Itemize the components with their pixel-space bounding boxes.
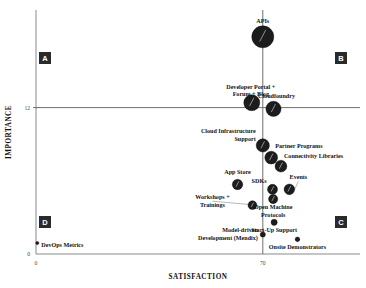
bubble-marker[interactable] [295,237,300,242]
data-point[interactable] [275,160,287,172]
point-label-line: Partner Programs [275,143,323,149]
point-label: Open MachineProtocols [254,204,293,218]
data-point[interactable] [295,237,300,242]
x-axis-title: SATISFACTION [169,273,228,281]
data-point[interactable] [269,195,278,204]
point-label-line: Connectivity Libraries [284,153,344,159]
data-point[interactable] [252,26,274,48]
point-label-line: Model-driven [222,227,258,233]
plot-canvas: APIsDeveloper Portal +Forum + BlogCloudf… [0,0,366,288]
axis-titles: IMPORTANCESATISFACTION [5,105,228,281]
point-label-line: Support [234,136,255,142]
quadrant-marker-d: D [39,216,51,228]
point-label: Cloud InfrastructureSupport [201,128,256,142]
point-label: Start-Up Support [251,227,297,233]
point-label: Workshops +Trainings [195,194,230,208]
point-label: Onsite Demonstrators [269,244,327,250]
point-label-line: SDKs [252,178,268,184]
point-label-line: APIs [256,18,269,24]
point-label: Partner Programs [275,143,323,149]
y-tick-label-12: 12 [24,105,30,111]
data-point[interactable] [36,241,39,244]
quadrant-marker-c: C [335,216,347,228]
data-point[interactable] [284,184,295,195]
point-label-line: App Store [224,169,251,175]
quadrant-letter: A [42,54,48,63]
point-label-line: Development (Mendix) [198,235,258,242]
scatter-chart: APIsDeveloper Portal +Forum + BlogCloudf… [0,0,366,288]
point-label: Model-drivenDevelopment (Mendix) [198,227,258,242]
point-label: App Store [224,169,251,175]
point-label-line: Onsite Demonstrators [269,244,327,250]
data-point[interactable] [271,219,277,225]
y-tick-label-0: 0 [27,251,30,257]
threshold-lines [36,10,360,254]
point-label: Events [290,174,308,180]
point-label: DevOps Metrics [41,242,84,248]
quadrant-letter: D [42,218,48,227]
point-label-line: Trainings [200,202,226,208]
quadrant-letter: C [338,218,344,227]
bubble-marker[interactable] [252,26,274,48]
axes-layer [36,10,360,254]
point-label-line: Cloud Infrastructure [201,128,256,134]
point-label-line: Open Machine [254,204,293,210]
point-label-line: Events [290,174,308,180]
quadrant-letter: B [338,54,344,63]
point-label-line: DevOps Metrics [41,242,84,248]
bubble-marker[interactable] [36,241,39,244]
leader-line [295,181,299,189]
x-tick-label-0: 0 [35,260,38,266]
data-point[interactable] [268,184,278,194]
point-label-line: Protocols [261,212,286,218]
point-label: APIs [256,18,269,24]
data-point[interactable] [256,139,269,152]
bubble-marker[interactable] [271,219,277,225]
point-labels: APIsDeveloper Portal +Forum + BlogCloudf… [41,18,343,251]
point-label: Connectivity Libraries [284,153,344,159]
data-point[interactable] [232,179,242,189]
quadrant-markers: ABCD [39,52,347,228]
y-axis-title: IMPORTANCE [5,105,13,159]
quadrant-marker-b: B [335,52,347,64]
point-label: SDKs [252,178,268,184]
point-label-line: Developer Portal + [226,84,276,90]
point-label-line: Cloudfoundry [258,93,295,99]
x-tick-label-70: 70 [260,260,266,266]
quadrant-marker-a: A [39,52,51,64]
point-label: Cloudfoundry [258,93,295,99]
data-point[interactable] [266,101,281,116]
point-label-line: Start-Up Support [251,227,297,233]
data-point[interactable] [265,151,278,164]
point-label-line: Workshops + [195,194,230,200]
